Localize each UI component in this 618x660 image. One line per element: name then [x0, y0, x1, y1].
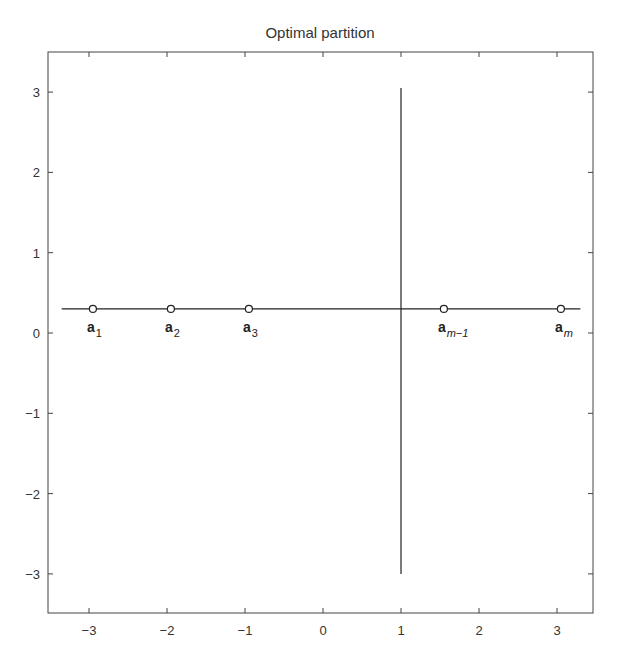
point-marker — [245, 305, 252, 312]
x-tick-label: 1 — [397, 623, 404, 638]
plot-area — [48, 52, 593, 613]
x-tick-label: 0 — [319, 623, 326, 638]
point-marker — [557, 305, 564, 312]
data-points: a1a2a3am−1am — [87, 305, 573, 339]
y-tick-label: 3 — [33, 85, 40, 100]
y-tick-label: −2 — [25, 487, 40, 502]
chart-title: Optimal partition — [265, 24, 374, 41]
x-tick-label: 3 — [553, 623, 560, 638]
x-tick-label: −2 — [160, 623, 175, 638]
y-tick-label: −3 — [25, 567, 40, 582]
x-tick-label: 2 — [475, 623, 482, 638]
x-tick-label: −3 — [82, 623, 97, 638]
axis-ticks: −3−2−10123−3−2−10123 — [25, 52, 593, 638]
point-marker — [89, 305, 96, 312]
chart: Optimal partition −3−2−10123−3−2−10123 a… — [0, 0, 618, 660]
point-marker — [167, 305, 174, 312]
y-tick-label: 2 — [33, 165, 40, 180]
point-label: a2 — [165, 319, 180, 339]
point-label: am−1 — [438, 319, 469, 339]
point-marker — [440, 305, 447, 312]
y-tick-label: −1 — [25, 406, 40, 421]
point-label: a3 — [243, 319, 258, 339]
y-tick-label: 1 — [33, 246, 40, 261]
plot-lines — [62, 88, 581, 574]
point-label: a1 — [87, 319, 102, 339]
y-tick-label: 0 — [33, 326, 40, 341]
point-label: am — [555, 319, 573, 339]
x-tick-label: −1 — [238, 623, 253, 638]
